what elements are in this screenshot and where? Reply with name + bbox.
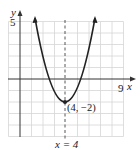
vertex-label: (4, −2) bbox=[67, 103, 96, 114]
y-tick-label: 5 bbox=[10, 17, 16, 28]
x-axis-label: x bbox=[127, 81, 132, 92]
x-tick-label: 9 bbox=[118, 83, 124, 94]
curve-arrow-left-icon bbox=[33, 16, 38, 23]
y-axis-arrow-icon bbox=[18, 10, 23, 16]
axis-of-symmetry-label: x = 4 bbox=[55, 139, 78, 150]
axes bbox=[8, 12, 134, 137]
parabola-graph bbox=[0, 0, 140, 150]
curve-arrow-right-icon bbox=[93, 16, 98, 23]
